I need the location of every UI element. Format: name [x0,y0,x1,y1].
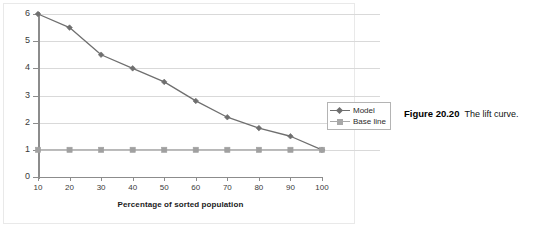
data-point-10 [35,11,41,17]
data-point-60 [193,147,198,152]
data-point-50 [162,147,167,152]
data-point-80 [256,147,261,152]
series-base-line [35,147,324,152]
x-axis-title: Percentage of sorted population [38,200,323,209]
data-point-100 [319,147,324,152]
square-marker-icon [330,116,350,127]
data-point-40 [130,147,135,152]
chart-legend: Model Base line [327,102,391,130]
data-point-80 [256,125,262,131]
caption-text: The lift curve. [464,109,518,119]
series-line [38,14,322,150]
data-point-70 [225,147,230,152]
series-model [35,11,325,152]
diamond-marker-icon [330,105,350,116]
data-point-10 [35,147,40,152]
caption-number: Figure 20.20 [404,108,459,119]
data-point-20 [67,147,72,152]
data-point-90 [288,133,294,139]
legend-item-model[interactable]: Model [330,105,386,116]
legend-label-model: Model [350,105,375,116]
data-point-50 [161,79,167,85]
legend-label-base-line: Base line [350,116,386,127]
data-point-70 [225,114,231,120]
data-point-30 [99,147,104,152]
data-point-40 [130,66,136,72]
data-point-90 [288,147,293,152]
data-point-60 [193,98,199,104]
figure-caption: Figure 20.20 The lift curve. [404,108,519,120]
figure-lift-curve: 0123456 102030405060708090100 Percentage… [0,0,559,232]
legend-item-base-line[interactable]: Base line [330,116,386,127]
